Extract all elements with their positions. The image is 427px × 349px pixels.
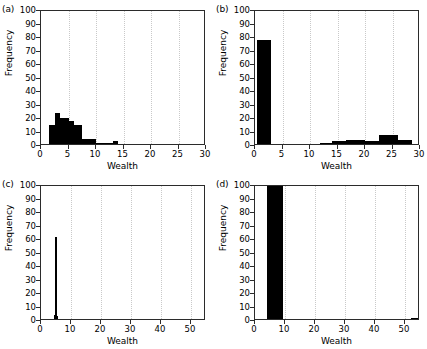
x-tick-label-40: 40 <box>369 325 380 334</box>
panel-c-plot-area <box>40 185 205 320</box>
y-tick-mark-10 <box>250 132 254 133</box>
x-tick-label-0: 0 <box>37 150 42 159</box>
y-tick-mark-80 <box>250 212 254 213</box>
x-tick-label-20: 20 <box>95 325 106 334</box>
x-tick-label-15: 15 <box>117 150 128 159</box>
y-tick-mark-30 <box>36 105 40 106</box>
x-tick-label-10: 10 <box>304 150 315 159</box>
gridline-x-10 <box>96 11 97 144</box>
y-tick-mark-60 <box>250 64 254 65</box>
x-tick-label-20: 20 <box>359 150 370 159</box>
y-tick-mark-50 <box>36 253 40 254</box>
y-tick-mark-50 <box>250 78 254 79</box>
y-tick-mark-70 <box>36 51 40 52</box>
y-tick-mark-70 <box>36 226 40 227</box>
gridline-x-15 <box>124 11 125 144</box>
x-tick-label-50: 50 <box>185 325 196 334</box>
x-tick-label-0: 0 <box>37 325 42 334</box>
panel-d-y-axis-title: Frequency <box>218 183 228 273</box>
histogram-bar <box>411 318 419 319</box>
x-tick-label-50: 50 <box>399 325 410 334</box>
panel-d: (d) 0102030405060708090100 Frequency Wea… <box>214 175 427 349</box>
x-tick-label-30: 30 <box>125 325 136 334</box>
y-tick-label-0: 0 <box>2 141 36 150</box>
y-tick-label-10: 10 <box>2 303 36 312</box>
y-tick-mark-10 <box>250 307 254 308</box>
y-tick-mark-40 <box>250 266 254 267</box>
y-tick-mark-80 <box>36 212 40 213</box>
x-tick-label-25: 25 <box>172 150 183 159</box>
y-tick-mark-30 <box>250 280 254 281</box>
histogram-bar <box>398 140 412 144</box>
y-tick-mark-40 <box>250 91 254 92</box>
histogram-bar <box>379 135 398 144</box>
y-tick-mark-60 <box>36 64 40 65</box>
y-tick-label-30: 30 <box>216 101 250 110</box>
x-tick-label-30: 30 <box>414 150 425 159</box>
y-tick-label-20: 20 <box>216 114 250 123</box>
y-tick-mark-90 <box>250 24 254 25</box>
gridline-x-30 <box>131 186 132 319</box>
histogram-bar <box>55 237 57 319</box>
gridline-x-5 <box>283 11 284 144</box>
y-tick-mark-80 <box>36 37 40 38</box>
y-tick-label-0: 0 <box>216 316 250 325</box>
y-tick-mark-100 <box>36 185 40 186</box>
y-tick-mark-30 <box>36 280 40 281</box>
gridline-x-20 <box>101 186 102 319</box>
y-tick-label-0: 0 <box>216 141 250 150</box>
y-tick-mark-60 <box>36 239 40 240</box>
panel-c: (c) 0102030405060708090100 Frequency Wea… <box>0 175 213 349</box>
gridline-x-10 <box>310 11 311 144</box>
y-tick-mark-40 <box>36 266 40 267</box>
y-tick-mark-30 <box>250 105 254 106</box>
panel-d-plot-area <box>254 185 419 320</box>
panel-b: (b) 0102030405060708090100 Frequency Wea… <box>214 0 427 174</box>
gridline-x-20 <box>315 186 316 319</box>
x-tick-label-10: 10 <box>65 325 76 334</box>
y-tick-mark-100 <box>250 10 254 11</box>
x-tick-label-10: 10 <box>279 325 290 334</box>
panel-d-x-axis-title: Wealth <box>254 336 419 346</box>
histogram-bar <box>54 315 55 319</box>
y-tick-mark-20 <box>36 118 40 119</box>
x-tick-label-15: 15 <box>331 150 342 159</box>
x-tick-label-5: 5 <box>279 150 284 159</box>
gridline-x-20 <box>151 11 152 144</box>
y-tick-mark-20 <box>36 293 40 294</box>
y-tick-label-10: 10 <box>216 128 250 137</box>
y-tick-mark-90 <box>250 199 254 200</box>
y-tick-mark-10 <box>36 132 40 133</box>
x-tick-label-30: 30 <box>339 325 350 334</box>
gridline-x-25 <box>179 11 180 144</box>
y-tick-label-20: 20 <box>2 289 36 298</box>
panel-c-x-axis-title: Wealth <box>40 336 205 346</box>
panel-a-y-axis-title: Frequency <box>4 8 14 98</box>
panel-a-x-axis-title: Wealth <box>40 161 205 171</box>
y-tick-mark-20 <box>250 293 254 294</box>
y-tick-label-30: 30 <box>2 101 36 110</box>
histogram-bar <box>57 316 58 319</box>
y-tick-label-20: 20 <box>2 114 36 123</box>
y-tick-mark-10 <box>36 307 40 308</box>
histogram-bar <box>49 125 56 144</box>
gridline-x-20 <box>365 11 366 144</box>
y-tick-mark-100 <box>36 10 40 11</box>
panel-b-x-axis-title: Wealth <box>254 161 419 171</box>
y-tick-mark-70 <box>250 226 254 227</box>
x-tick-label-20: 20 <box>309 325 320 334</box>
histogram-bar <box>267 185 283 319</box>
y-tick-label-0: 0 <box>2 316 36 325</box>
panel-c-y-axis-title: Frequency <box>4 183 14 273</box>
x-tick-label-10: 10 <box>90 150 101 159</box>
x-tick-label-0: 0 <box>251 150 256 159</box>
gridline-x-50 <box>405 186 406 319</box>
histogram-bar <box>257 40 272 144</box>
gridline-x-40 <box>375 186 376 319</box>
gridline-x-25 <box>393 11 394 144</box>
x-tick-label-20: 20 <box>145 150 156 159</box>
panel-a-plot-area <box>40 10 205 145</box>
panel-a: (a) 0102030405060708090100 Frequency Wea… <box>0 0 213 174</box>
histogram-bar <box>332 141 346 144</box>
gridline-x-30 <box>345 186 346 319</box>
